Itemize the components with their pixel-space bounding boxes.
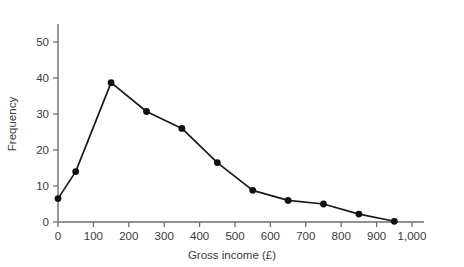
data-point-marker	[249, 187, 256, 194]
x-axis-tick-label: 500	[225, 230, 244, 242]
chart-canvas: 0102030405001002003004005006007008009001…	[0, 0, 464, 267]
data-point-marker	[143, 108, 150, 115]
x-axis-tick-label: 900	[367, 230, 386, 242]
x-axis-tick-label: 300	[155, 230, 174, 242]
x-axis-tick-label: 600	[261, 230, 280, 242]
x-axis-tick-label: 200	[119, 230, 138, 242]
x-axis-tick-label: 0	[55, 230, 61, 242]
x-axis-title: Gross income (£)	[188, 249, 276, 261]
y-axis-tick-label: 10	[36, 180, 49, 192]
data-point-marker	[72, 168, 79, 175]
x-axis-tick-label: 100	[84, 230, 103, 242]
data-point-marker	[108, 79, 115, 86]
y-axis-tick-label: 40	[36, 72, 49, 84]
data-point-marker	[285, 197, 292, 204]
x-axis-tick-label: 700	[296, 230, 315, 242]
y-axis-tick-label: 20	[36, 144, 49, 156]
x-axis-tick-label: 1,000	[398, 230, 427, 242]
y-axis-title: Frequency	[6, 97, 18, 152]
y-axis-tick-label: 30	[36, 108, 49, 120]
x-axis-tick-label: 400	[190, 230, 209, 242]
data-point-marker	[320, 201, 327, 208]
data-point-marker	[55, 195, 62, 202]
data-point-marker	[214, 159, 221, 166]
y-axis-tick-label: 50	[36, 36, 49, 48]
data-point-marker	[391, 218, 398, 225]
data-series-line	[58, 83, 394, 222]
data-point-marker	[179, 125, 186, 132]
frequency-polygon-chart: 0102030405001002003004005006007008009001…	[0, 0, 464, 267]
x-axis-tick-label: 800	[332, 230, 351, 242]
data-point-marker	[356, 211, 363, 218]
y-axis-tick-label: 0	[43, 216, 49, 228]
